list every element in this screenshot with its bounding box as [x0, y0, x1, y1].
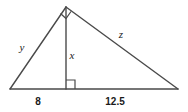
triangle-side-y [10, 7, 66, 89]
label-altitude-x: x [69, 49, 75, 61]
label-base-left-8: 8 [35, 96, 41, 107]
triangle-side-z [66, 7, 178, 89]
label-side-z: z [118, 28, 124, 40]
label-side-y: y [19, 41, 25, 53]
triangle-diagram-canvas: y x z 8 12.5 [0, 0, 188, 112]
foot-right-angle-icon [66, 80, 75, 89]
geometry-figure: y x z 8 12.5 [0, 0, 188, 112]
label-base-right-12-5: 12.5 [105, 96, 125, 107]
